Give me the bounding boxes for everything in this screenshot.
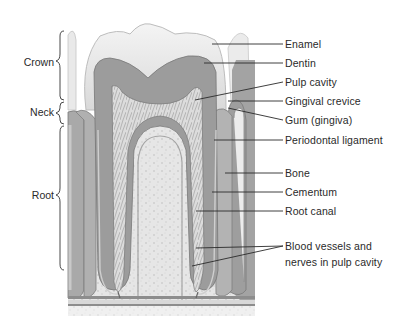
tooth-illustration bbox=[0, 0, 399, 327]
region-braces bbox=[56, 31, 64, 270]
label-periodontal-ligament: Periodontal ligament bbox=[285, 134, 383, 146]
region-label-neck: Neck bbox=[18, 106, 54, 118]
label-bone: Bone bbox=[285, 167, 310, 179]
label-root-canal: Root canal bbox=[285, 205, 336, 217]
region-label-root: Root bbox=[18, 189, 54, 201]
label-cementum: Cementum bbox=[285, 186, 337, 198]
region-label-crown: Crown bbox=[18, 56, 54, 68]
tooth-diagram: Crown Neck Root Enamel Dentin Pulp cavit… bbox=[0, 0, 399, 327]
label-gingival-crevice: Gingival crevice bbox=[285, 95, 361, 107]
label-enamel: Enamel bbox=[285, 38, 321, 50]
label-pulp-cavity: Pulp cavity bbox=[285, 76, 337, 88]
label-gum: Gum (gingiva) bbox=[285, 114, 352, 126]
label-blood-vessels-nerves: Blood vessels and nerves in pulp cavity bbox=[285, 239, 395, 270]
label-dentin: Dentin bbox=[285, 57, 316, 69]
